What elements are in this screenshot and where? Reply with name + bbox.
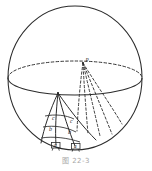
back-meridian-1 <box>77 63 83 131</box>
sphere-diagram: P <box>0 0 152 171</box>
label-a-left: a <box>54 142 57 148</box>
figure-container: P <box>0 0 152 171</box>
back-meridian-5 <box>83 63 122 124</box>
label-c-left: c <box>52 115 55 121</box>
equator-back-arc <box>8 61 142 78</box>
label-a-right: a <box>74 143 77 149</box>
cell-label-group: c b a c b a <box>49 115 77 149</box>
latitude-chord-middle <box>43 126 76 132</box>
label-c-right: c <box>70 118 73 124</box>
front-meridian-group <box>41 93 96 146</box>
front-meridian-4 <box>58 93 96 140</box>
label-b-right: b <box>68 129 71 135</box>
sphere-outline <box>8 6 142 150</box>
latitude-chord-group <box>41 115 80 142</box>
latitude-chord-lower <box>41 137 80 142</box>
back-meridian-group <box>77 63 122 136</box>
figure-caption: 图 22-3 <box>0 157 152 166</box>
pole-label: P <box>85 57 90 63</box>
label-b-left: b <box>49 126 52 132</box>
apex-point <box>57 92 59 94</box>
equator-front-arc <box>8 78 142 95</box>
